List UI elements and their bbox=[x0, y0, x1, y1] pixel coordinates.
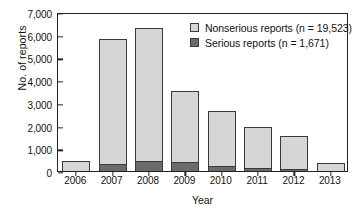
bar-2011[interactable] bbox=[244, 127, 272, 171]
bar-segment-nonserious-2013[interactable] bbox=[317, 163, 345, 171]
legend-label-serious: Serious reports (n = 1,671) bbox=[205, 37, 329, 49]
serious-swatch-icon bbox=[190, 38, 199, 47]
y-axis-tick-mark bbox=[58, 172, 63, 173]
y-axis-tick-mark bbox=[58, 36, 63, 37]
y-axis-tick-label: 7,000 bbox=[27, 9, 58, 20]
bar-chart-figure: No. of reports 01,0002,0003,0004,0005,00… bbox=[0, 0, 358, 213]
x-axis-tick-label-2013: 2013 bbox=[308, 175, 352, 186]
y-axis-tick-mark bbox=[58, 81, 63, 82]
bar-segment-nonserious-2010[interactable] bbox=[208, 111, 236, 168]
y-axis-tick-label: 1,000 bbox=[27, 145, 58, 156]
y-axis-tick-label: 5,000 bbox=[27, 54, 58, 65]
bar-segment-nonserious-2012[interactable] bbox=[280, 136, 308, 171]
y-axis-tick-label: 3,000 bbox=[27, 99, 58, 110]
bar-2010[interactable] bbox=[208, 111, 236, 171]
bar-segment-serious-2007[interactable] bbox=[99, 164, 127, 171]
y-axis-tick-label: 2,000 bbox=[27, 122, 58, 133]
legend-entry-serious: Serious reports (n = 1,671) bbox=[190, 35, 352, 50]
nonserious-swatch-icon bbox=[190, 23, 199, 32]
bar-2013[interactable] bbox=[317, 163, 345, 171]
y-axis-tick-mark bbox=[58, 150, 63, 151]
y-axis-tick-label: 4,000 bbox=[27, 77, 58, 88]
bar-segment-serious-2008[interactable] bbox=[135, 161, 163, 171]
bar-segment-nonserious-2007[interactable] bbox=[99, 39, 127, 165]
y-axis-tick-mark bbox=[58, 59, 63, 60]
chart-legend: Nonserious reports (n = 19,523) Serious … bbox=[190, 20, 352, 50]
y-axis-title: No. of reports bbox=[16, 0, 28, 128]
bar-2009[interactable] bbox=[171, 91, 199, 171]
legend-label-nonserious: Nonserious reports (n = 19,523) bbox=[205, 22, 352, 34]
bar-segment-serious-2009[interactable] bbox=[171, 162, 199, 171]
bar-2008[interactable] bbox=[135, 28, 163, 171]
y-axis-tick-label: 6,000 bbox=[27, 31, 58, 42]
bar-2006[interactable] bbox=[62, 161, 90, 171]
bar-segment-nonserious-2008[interactable] bbox=[135, 28, 163, 162]
bar-segment-nonserious-2009[interactable] bbox=[171, 91, 199, 163]
y-axis-tick-mark bbox=[58, 104, 63, 105]
bar-2012[interactable] bbox=[280, 136, 308, 171]
legend-entry-nonserious: Nonserious reports (n = 19,523) bbox=[190, 20, 352, 35]
bar-segment-nonserious-2011[interactable] bbox=[244, 127, 272, 169]
x-axis-title: Year bbox=[57, 194, 348, 206]
bar-2007[interactable] bbox=[99, 39, 127, 171]
bar-segment-nonserious-2006[interactable] bbox=[62, 161, 90, 171]
y-axis-tick-mark bbox=[58, 13, 63, 14]
y-axis-tick-mark bbox=[58, 127, 63, 128]
